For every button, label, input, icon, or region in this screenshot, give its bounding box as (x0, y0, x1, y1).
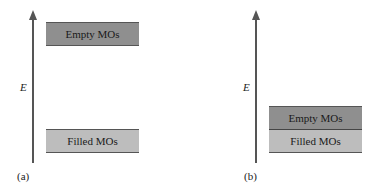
panel-label: (b) (244, 170, 257, 182)
filled-mos-band: Filled MOs (269, 129, 362, 153)
energy-axis (255, 18, 257, 163)
filled-mos-band: Filled MOs (46, 129, 139, 153)
empty-mos-band: Empty MOs (46, 22, 139, 46)
energy-axis (32, 18, 34, 163)
energy-axis-label: E (243, 81, 250, 93)
energy-axis-label: E (20, 81, 27, 93)
panel-label: (a) (17, 170, 29, 182)
empty-mos-band: Empty MOs (269, 106, 362, 130)
